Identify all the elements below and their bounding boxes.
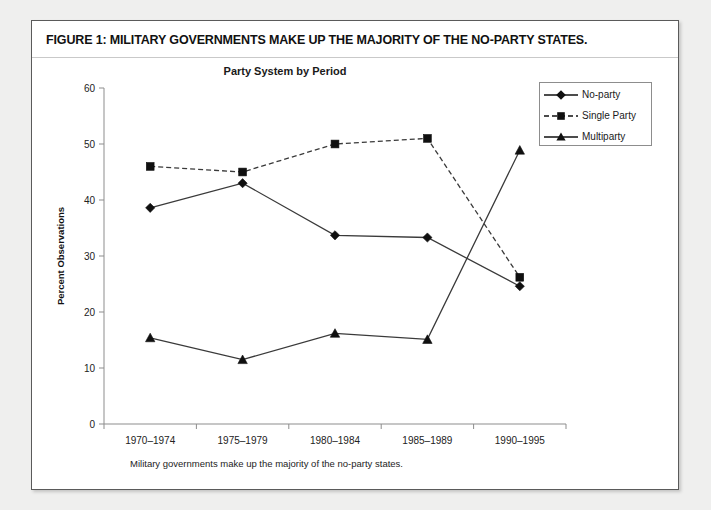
y-axis-ticks: 0102030405060: [84, 83, 104, 430]
data-point-diamond: [515, 282, 524, 291]
x-tick-label: 1985–1989: [402, 435, 452, 446]
data-point-diamond: [238, 179, 247, 188]
data-point-triangle: [515, 146, 524, 155]
legend-label-single-party: Single Party: [582, 110, 636, 121]
legend-swatch-diamond-icon: [540, 86, 582, 104]
legend-item-no-party[interactable]: No-party: [540, 84, 653, 105]
y-tick-label: 40: [84, 195, 96, 206]
legend-label-multiparty: Multiparty: [582, 131, 625, 142]
y-tick-label: 30: [84, 251, 96, 262]
y-tick-label: 20: [84, 307, 96, 318]
data-point-diamond: [330, 231, 339, 240]
y-tick-label: 60: [84, 83, 96, 94]
page-background: FIGURE 1: MILITARY GOVERNMENTS MAKE UP T…: [0, 0, 711, 510]
legend-swatch-triangle-icon: [540, 128, 582, 146]
legend-swatch-square-icon: [540, 107, 582, 125]
data-point-diamond: [146, 203, 155, 212]
y-tick-label: 10: [84, 363, 96, 374]
data-point-square: [146, 163, 154, 171]
chart-axes: [104, 88, 566, 424]
figure-caption: Military governments make up the majorit…: [130, 458, 403, 469]
data-point-diamond: [423, 233, 432, 242]
x-tick-label: 1980–1984: [310, 435, 360, 446]
legend-label-no-party: No-party: [582, 89, 620, 100]
x-tick-label: 1990–1995: [495, 435, 545, 446]
series-no-party: [146, 179, 525, 291]
figure-panel: FIGURE 1: MILITARY GOVERNMENTS MAKE UP T…: [31, 20, 679, 490]
data-point-square: [331, 140, 339, 148]
legend-item-multiparty[interactable]: Multiparty: [540, 126, 653, 147]
y-tick-label: 0: [89, 419, 95, 430]
chart-legend: No-party Single Party Mu: [539, 82, 652, 146]
series-multiparty: [146, 146, 525, 364]
y-tick-label: 50: [84, 139, 96, 150]
chart-series: [146, 135, 525, 364]
data-point-square: [424, 135, 432, 143]
data-point-square: [239, 168, 247, 176]
y-axis-title: Percent Observations: [55, 207, 66, 305]
x-tick-label: 1970–1974: [125, 435, 175, 446]
legend-item-single-party[interactable]: Single Party: [540, 105, 653, 126]
svg-text:Percent Observations: Percent Observations: [55, 207, 66, 305]
data-point-triangle: [146, 333, 155, 342]
x-tick-label: 1975–1979: [218, 435, 268, 446]
data-point-square: [516, 273, 524, 281]
x-axis-ticks: 1970–19741975–19791980–19841985–19891990…: [104, 424, 566, 446]
